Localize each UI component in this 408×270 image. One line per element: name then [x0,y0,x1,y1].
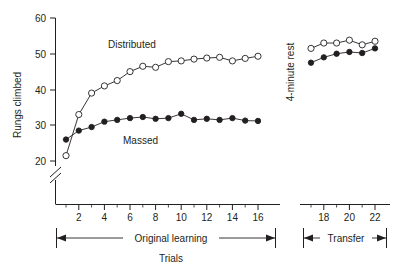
x-tick-label-22: 22 [369,212,381,223]
data-point-distributed-trial-13 [217,54,223,60]
data-point-massed-trial-3 [89,124,94,129]
phase-label-original: Original learning [135,233,208,244]
x-tick-label-2: 2 [76,212,82,223]
y-tick-label-60: 60 [35,13,47,24]
data-point-massed-trial-8 [153,116,158,121]
data-point-distributed-trial-17 [308,45,314,51]
data-point-massed-trial-18 [321,55,326,60]
chart-figure: Rungs climbed 60 50 40 30 20 24681012141… [0,0,408,270]
data-point-massed-trial-22 [372,46,377,51]
data-point-massed-trial-14 [230,115,235,120]
x-tick-label-20: 20 [344,212,356,223]
data-point-distributed-trial-22 [372,38,378,44]
data-point-massed-trial-6 [127,115,132,120]
y-axis-ticks [50,18,56,161]
phase-label-transfer: Transfer [328,233,366,244]
y-tick-label-50: 50 [35,49,47,60]
data-point-distributed-trial-12 [204,55,210,61]
x-tick-label-4: 4 [102,212,108,223]
data-point-massed-trial-15 [243,118,248,123]
data-point-massed-trial-5 [115,117,120,122]
rest-note-label: 4-minute rest [285,43,296,102]
data-point-massed-trial-16 [255,118,260,123]
x-axis-title: Trials [159,253,183,264]
data-point-distributed-trial-9 [165,59,171,65]
data-point-distributed-trial-5 [114,77,120,83]
x-tick-labels-original: 246810121416 [76,212,264,223]
data-point-massed-trial-9 [166,115,171,120]
x-tick-label-12: 12 [201,212,213,223]
x-tick-label-8: 8 [153,212,159,223]
data-point-massed-trial-2 [76,128,81,133]
series-massed-line-transfer [311,48,375,62]
data-point-massed-trial-4 [102,119,107,124]
data-point-distributed-trial-4 [101,83,107,89]
x-tick-label-16: 16 [252,212,264,223]
series-label-massed: Massed [123,135,158,146]
x-axis-ticks-original [66,205,258,211]
data-point-massed-trial-7 [140,114,145,119]
data-point-distributed-trial-1 [63,153,69,159]
data-point-distributed-trial-8 [153,64,159,70]
data-point-massed-trial-19 [334,51,339,56]
series-label-distributed: Distributed [108,39,156,50]
data-point-distributed-trial-7 [140,63,146,69]
phase-bracket-original: Original learning [57,228,276,248]
data-point-distributed-trial-21 [359,42,365,48]
data-point-distributed-trial-15 [242,55,248,61]
data-point-distributed-trial-18 [321,40,327,46]
data-point-distributed-trial-20 [346,37,352,43]
x-tick-label-14: 14 [227,212,239,223]
x-tick-label-10: 10 [176,212,188,223]
x-tick-label-6: 6 [127,212,133,223]
data-point-massed-trial-1 [63,137,68,142]
data-point-massed-trial-21 [360,50,365,55]
data-point-distributed-trial-14 [229,58,235,64]
data-point-massed-trial-13 [217,117,222,122]
y-axis-title: Rungs climbed [12,72,23,138]
y-tick-label-40: 40 [35,85,47,96]
data-point-distributed-trial-19 [334,40,340,46]
data-point-massed-trial-11 [191,117,196,122]
data-point-distributed-trial-2 [76,111,82,117]
data-point-massed-trial-12 [204,116,209,121]
series-massed-line-original [66,114,258,140]
x-tick-label-18: 18 [318,212,330,223]
x-axis-ticks-transfer [311,205,375,211]
data-point-distributed-trial-11 [191,56,197,62]
data-point-distributed-trial-6 [127,69,133,75]
data-point-massed-trial-10 [179,111,184,116]
phase-bracket-transfer: Transfer [304,228,387,248]
data-point-massed-trial-20 [347,49,352,54]
data-point-massed-trial-17 [308,60,313,65]
series-distributed-line-original [66,56,258,155]
x-tick-labels-transfer: 182022 [318,212,381,223]
data-point-distributed-trial-16 [255,53,261,59]
data-point-distributed-trial-3 [89,90,95,96]
data-point-distributed-trial-10 [178,58,184,64]
y-tick-label-30: 30 [35,120,47,131]
y-tick-label-20: 20 [35,156,47,167]
